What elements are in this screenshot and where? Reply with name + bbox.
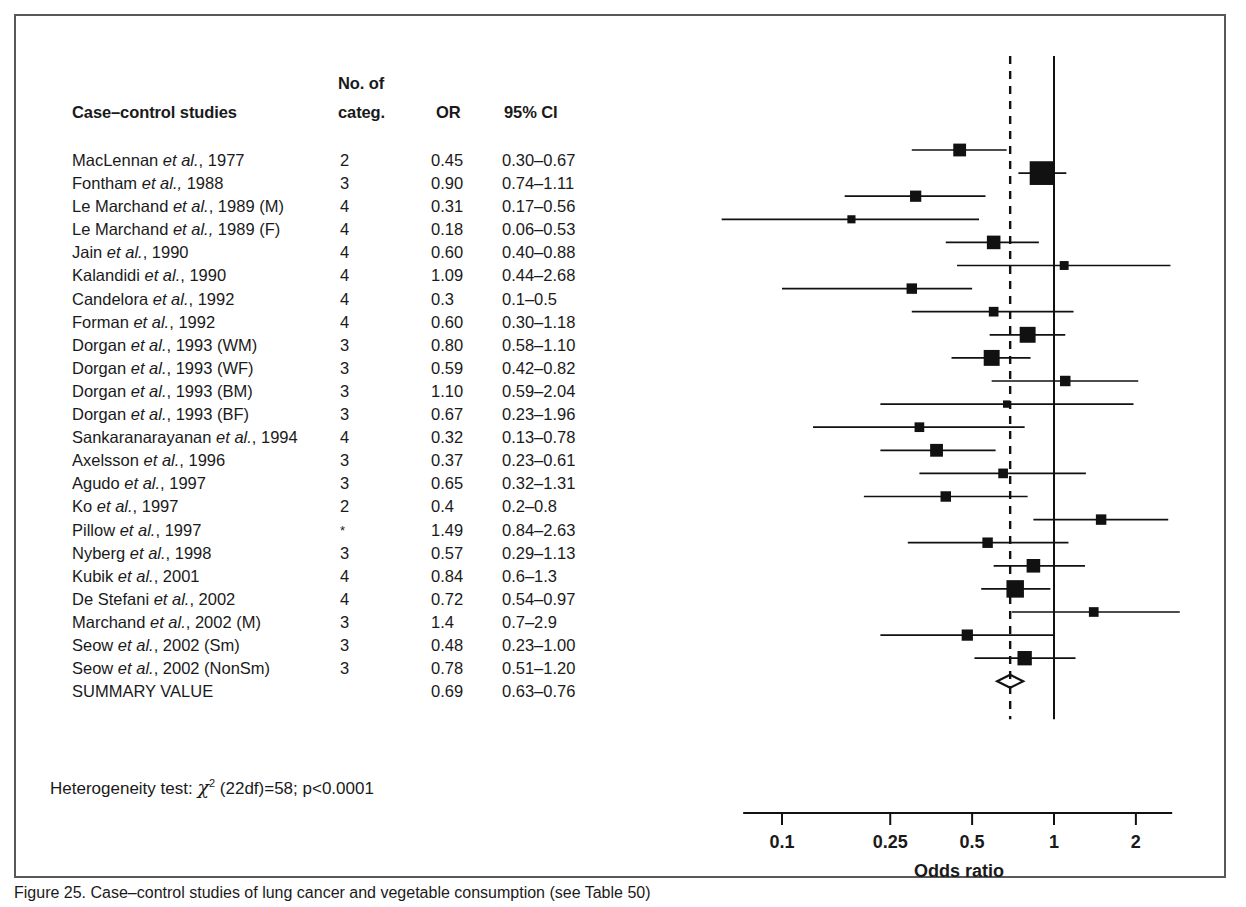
odds-ratio-value: 0.59 [431,359,477,378]
chi-symbol: χ [197,776,209,798]
study-label: Candelora et al., 1992 [72,290,234,309]
odds-ratio-value: 0.37 [431,451,477,470]
odds-ratio-value: 1.09 [431,266,477,285]
categories-count: 3 [340,544,370,563]
confidence-interval-value: 0.23–1.00 [502,636,575,655]
forest-row [992,376,1139,386]
point-estimate-marker [847,215,855,223]
table-row: Fontham et al., 198830.900.74–1.11 [50,174,630,197]
odds-ratio-value: 0.4 [431,497,477,516]
confidence-interval-value: 0.30–0.67 [502,151,575,170]
heterogeneity-stats: (22df)=58; p<0.0001 [220,779,374,798]
table-row: Axelsson et al., 199630.370.23–0.61 [50,451,630,474]
point-estimate-marker [930,444,943,457]
categories-count: 3 [340,659,370,678]
table-row: Le Marchand et al., 1989 (F)40.180.06–0.… [50,220,630,243]
point-estimate-marker [907,283,917,293]
categories-count: 4 [340,243,370,262]
categories-count: 3 [340,474,370,493]
categories-count: 3 [340,451,370,470]
study-label: MacLennan et al., 1977 [72,151,244,170]
point-estimate-marker [962,629,973,640]
column-header-or: OR [436,103,461,122]
categories-count: 3 [340,336,370,355]
chi-exponent: 2 [209,777,215,789]
confidence-interval-value: 0.13–0.78 [502,428,575,447]
categories-count: 4 [340,197,370,216]
study-label: Ko et al., 1997 [72,497,178,516]
table-row: Dorgan et al., 1993 (WF)30.590.42–0.82 [50,359,630,382]
odds-ratio-value: 0.57 [431,544,477,563]
confidence-interval-value: 0.74–1.11 [502,174,574,193]
confidence-interval-value: 0.23–1.96 [502,405,575,424]
odds-ratio-value: 0.3 [431,290,477,309]
categories-count: 3 [340,613,370,632]
confidence-interval-value: 0.7–2.9 [502,613,557,632]
study-label: Dorgan et al., 1993 (WM) [72,336,257,355]
summary-diamond [997,675,1023,688]
study-label: Agudo et al., 1997 [72,474,206,493]
column-header-no-of: No. of [338,74,384,93]
study-label: Le Marchand et al., 1989 (M) [72,197,284,216]
table-row: Ko et al., 199720.40.2–0.8 [50,497,630,520]
confidence-interval-value: 0.30–1.18 [502,313,575,332]
odds-ratio-value: 1.4 [431,613,477,632]
column-header-categ: categ. [338,103,385,122]
odds-ratio-value: 0.65 [431,474,477,493]
forest-row [919,469,1085,479]
categories-count: 4 [340,428,370,447]
point-estimate-marker [1060,376,1070,386]
categories-count: 4 [340,567,370,586]
categories-count: 3 [340,382,370,401]
point-estimate-marker [1006,580,1023,597]
table-row: Agudo et al., 199730.650.32–1.31 [50,474,630,497]
point-estimate-marker [1030,161,1054,185]
forest-row [1033,514,1168,524]
categories-count: 4 [340,313,370,332]
study-label: Nyberg et al., 1998 [72,544,211,563]
categories-count: 2 [340,151,370,170]
confidence-interval-value: 0.6–1.3 [502,567,557,586]
odds-ratio-value: 1.10 [431,382,477,401]
odds-ratio-value: 0.32 [431,428,477,447]
point-estimate-marker [989,307,999,317]
table-row: Le Marchand et al., 1989 (M)40.310.17–0.… [50,197,630,220]
x-axis-tick-label: 0.5 [960,832,985,853]
forest-row [994,559,1085,573]
confidence-interval-value: 0.54–0.97 [502,590,575,609]
column-header-ci: 95% CI [504,103,558,122]
study-label: SUMMARY VALUE [72,682,213,701]
odds-ratio-value: 0.69 [431,682,477,701]
categories-count: 3 [340,405,370,424]
point-estimate-marker [941,491,951,501]
categories-count: * [340,523,370,538]
point-estimate-marker [910,191,921,202]
forest-row [1012,607,1180,617]
forest-row [880,444,995,457]
confidence-interval-value: 0.51–1.20 [502,659,575,678]
table-body: MacLennan et al., 197720.450.30–0.67Font… [50,151,630,705]
odds-ratio-value: 0.60 [431,313,477,332]
x-axis-tick-label: 1 [1049,832,1059,853]
heterogeneity-prefix: Heterogeneity test: [50,779,193,798]
odds-ratio-value: 1.49 [431,521,477,540]
table-row: Sankaranarayanan et al., 199440.320.13–0… [50,428,630,451]
odds-ratio-value: 0.18 [431,220,477,239]
figure-caption: Figure 25. Case–control studies of lung … [14,884,1234,902]
odds-ratio-value: 0.80 [431,336,477,355]
confidence-interval-value: 0.63–0.76 [502,682,575,701]
study-label: Seow et al., 2002 (NonSm) [72,659,270,678]
table-row: Dorgan et al., 1993 (WM)30.800.58–1.10 [50,336,630,359]
study-label: Dorgan et al., 1993 (BF) [72,405,249,424]
x-axis-tick-label: 2 [1131,832,1141,853]
categories-count: 3 [340,636,370,655]
odds-ratio-value: 0.84 [431,567,477,586]
odds-ratio-value: 0.60 [431,243,477,262]
study-table: Case–control studies No. of categ. OR 95… [50,50,630,750]
confidence-interval-value: 0.40–0.88 [502,243,575,262]
study-label: Jain et al., 1990 [72,243,189,262]
forest-row [912,307,1074,317]
confidence-interval-value: 0.06–0.53 [502,220,575,239]
categories-count: 3 [340,359,370,378]
odds-ratio-value: 0.90 [431,174,477,193]
